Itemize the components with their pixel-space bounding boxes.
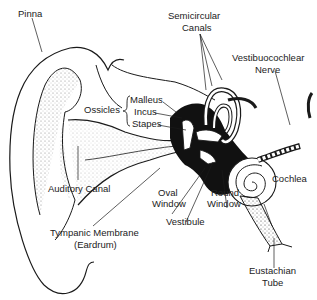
label-eustachian-tube-line1: Eustachian	[249, 266, 296, 277]
ear-illustration	[0, 0, 317, 300]
eustachian-tube	[240, 196, 282, 246]
label-eustachian-tube-line2: Tube	[262, 278, 283, 289]
label-vestibulocochlear-line2: Nerve	[255, 65, 280, 76]
label-vestibule: Vestibule	[166, 217, 205, 228]
label-oval-window-line1: Oval	[158, 188, 178, 199]
label-stapes: Stapes	[132, 119, 162, 130]
label-ossicles: Ossicles	[84, 105, 120, 116]
label-tympanic-membrane-line1: Tympanic Membrane	[50, 228, 139, 239]
label-malleus: Malleus	[130, 95, 163, 106]
label-vestibulocochlear-line1: Vestibuocochlear	[232, 53, 304, 64]
label-incus: Incus	[134, 107, 157, 118]
label-auditory-canal: Auditory Canal	[48, 184, 110, 195]
label-tympanic-membrane-line2: (Eardrum)	[74, 240, 117, 251]
label-semicircular-canals-line2: Canals	[182, 23, 212, 34]
ear-anatomy-diagram: Pinna Semicircular Canals Vestibuocochle…	[0, 0, 317, 300]
label-cochlea: Cochlea	[272, 174, 307, 185]
label-semicircular-canals-line1: Semicircular	[168, 11, 220, 22]
label-round-window-line1: Round	[211, 188, 239, 199]
label-round-window-line2: Window	[207, 199, 241, 210]
label-oval-window-line2: Window	[152, 199, 186, 210]
label-pinna: Pinna	[18, 9, 42, 20]
